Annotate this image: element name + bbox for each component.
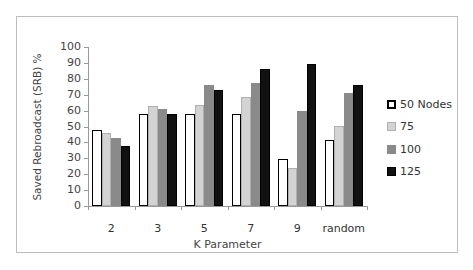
bar-100-k-7 xyxy=(251,83,261,206)
bar-100-k-5 xyxy=(204,85,214,206)
bar-50-nodes-k-2 xyxy=(92,130,102,206)
x-tick-label: 5 xyxy=(181,222,228,235)
x-tick-label: 3 xyxy=(135,222,182,235)
legend-swatch-icon xyxy=(387,100,396,109)
y-axis-line xyxy=(88,47,89,207)
y-tick-label: 20 xyxy=(55,168,81,180)
legend-label: 125 xyxy=(400,165,421,178)
bar-125-k-7 xyxy=(260,69,270,206)
x-tick xyxy=(228,206,229,210)
legend-label: 100 xyxy=(400,143,421,156)
bar-125-k-random xyxy=(353,85,363,206)
bar-125-k-2 xyxy=(121,146,131,206)
x-tick-label: 7 xyxy=(228,222,275,235)
x-tick xyxy=(88,206,89,210)
bar-100-k-random xyxy=(344,93,354,206)
bar-125-k-3 xyxy=(167,114,177,206)
x-tick-label: random xyxy=(321,222,368,235)
bar-100-k-9 xyxy=(297,111,307,206)
legend-swatch-icon xyxy=(387,122,396,131)
y-tick-label: 100 xyxy=(55,41,81,53)
legend-label: 50 Nodes xyxy=(400,98,452,111)
bar-100-k-3 xyxy=(158,109,168,206)
legend: 50 Nodes75100125 xyxy=(387,93,452,183)
legend-item: 75 xyxy=(387,116,452,139)
legend-item: 125 xyxy=(387,161,452,184)
x-tick xyxy=(321,206,322,210)
bar-75-k-3 xyxy=(148,106,158,206)
x-tick xyxy=(274,206,275,210)
legend-item: 100 xyxy=(387,138,452,161)
legend-swatch-icon xyxy=(387,145,396,154)
bar-50-nodes-k-9 xyxy=(278,159,288,206)
legend-label: 75 xyxy=(400,120,414,133)
y-tick-label: 70 xyxy=(55,89,81,101)
y-tick-label: 30 xyxy=(55,152,81,164)
bar-50-nodes-k-random xyxy=(325,140,335,206)
bar-75-k-5 xyxy=(195,105,205,206)
bar-75-k-7 xyxy=(241,97,251,206)
bar-50-nodes-k-3 xyxy=(139,114,149,206)
y-tick-label: 50 xyxy=(55,121,81,133)
bar-75-k-9 xyxy=(288,168,298,206)
legend-item: 50 Nodes xyxy=(387,93,452,116)
bar-125-k-9 xyxy=(307,64,317,206)
x-tick xyxy=(181,206,182,210)
x-tick xyxy=(367,206,368,210)
bar-100-k-2 xyxy=(111,138,121,206)
bar-50-nodes-k-7 xyxy=(232,114,242,206)
x-axis-title: K Parameter xyxy=(88,238,367,251)
bar-125-k-5 xyxy=(214,90,224,206)
legend-swatch-icon xyxy=(387,167,396,176)
x-tick xyxy=(135,206,136,210)
x-tick-label: 9 xyxy=(274,222,321,235)
y-tick-label: 80 xyxy=(55,73,81,85)
bar-75-k-random xyxy=(334,126,344,206)
y-tick-label: 90 xyxy=(55,57,81,69)
bar-75-k-2 xyxy=(102,133,112,206)
y-tick-label: 40 xyxy=(55,136,81,148)
y-tick-label: 0 xyxy=(55,200,81,212)
x-tick-label: 2 xyxy=(88,222,135,235)
y-tick-label: 60 xyxy=(55,105,81,117)
y-tick-label: 10 xyxy=(55,184,81,196)
y-axis-title: Saved Rebroadcast (SRB) % xyxy=(31,53,43,200)
bar-50-nodes-k-5 xyxy=(185,114,195,206)
